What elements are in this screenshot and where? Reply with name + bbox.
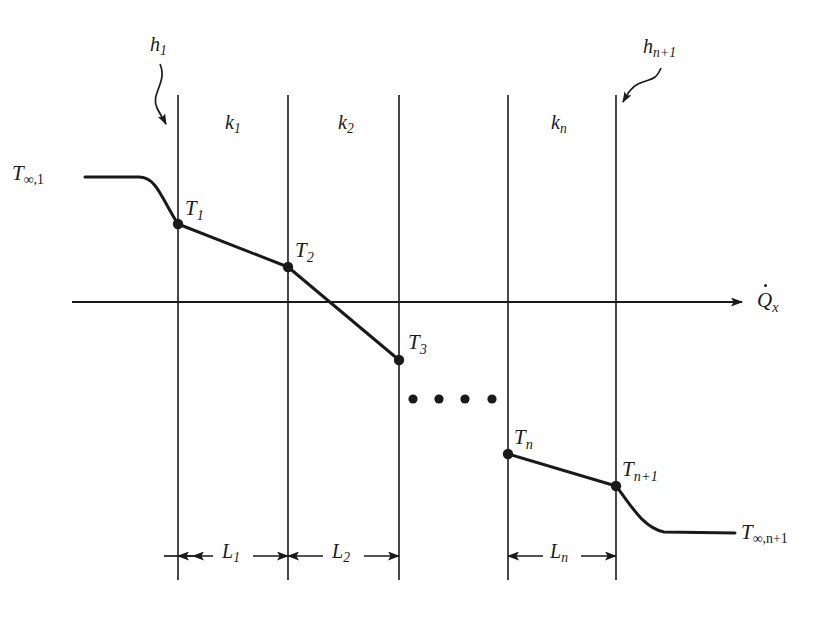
label-heat-flux-base-wrap: Q	[757, 290, 772, 311]
label-h1-sub: 1	[160, 43, 167, 58]
label-k2-base: k	[338, 111, 347, 133]
label-hn1: hn+1	[643, 36, 676, 60]
label-t2: T2	[295, 240, 314, 264]
node-marker-tn	[503, 449, 513, 459]
temperature-node-markers	[173, 219, 621, 491]
ellipsis-dot	[408, 394, 417, 403]
overdot-icon	[764, 284, 767, 287]
node-marker-tn-plus-1	[611, 481, 621, 491]
profile-segment-right-convection	[616, 486, 735, 533]
label-k2-sub: 2	[347, 121, 354, 136]
profile-segment-layer-2	[288, 267, 399, 360]
label-t-inf-n-plus-1-base: T	[741, 520, 753, 544]
label-k2: k2	[338, 112, 354, 136]
label-tn: Tn	[514, 427, 533, 451]
hn1-leader-path	[623, 68, 661, 102]
node-marker-t2	[283, 262, 293, 272]
profile-segment-left-convection	[85, 177, 178, 224]
label-t3-base: T	[408, 330, 420, 354]
label-hn1-base: h	[643, 35, 653, 57]
label-hn1-sub: n+1	[653, 45, 676, 60]
label-t1-sub: 1	[197, 207, 204, 223]
label-t-inf-n-plus-1-sub: ∞,n+1	[753, 531, 788, 546]
label-t-inf-1-sub: ∞,1	[24, 172, 44, 187]
profile-segment-layer-n	[508, 454, 616, 486]
label-t-inf-n-plus-1: T∞,n+1	[741, 522, 788, 546]
label-tn-plus-1-sub: n+1	[634, 468, 659, 484]
ellipsis-dot	[434, 394, 443, 403]
label-kn-sub: n	[560, 121, 567, 136]
ellipsis-dot	[460, 394, 469, 403]
label-t3: T3	[408, 332, 427, 356]
label-t3-sub: 3	[420, 341, 427, 357]
label-l2-base: L	[332, 540, 343, 562]
label-t1: T1	[185, 198, 204, 222]
label-l1-sub: 1	[233, 550, 240, 565]
label-t-inf-1-base: T	[12, 161, 24, 185]
label-l1: L1	[222, 541, 240, 565]
h1-leader-arrow	[155, 64, 166, 124]
label-l1-base: L	[222, 540, 233, 562]
label-tn-plus-1-base: T	[622, 457, 634, 481]
label-k1: k1	[225, 112, 241, 136]
label-heat-flux: Qx	[757, 290, 779, 314]
label-t-inf-1: T∞,1	[12, 163, 44, 187]
label-ln-sub: n	[561, 550, 568, 565]
label-l2: L2	[332, 541, 350, 565]
h1-leader-path	[155, 64, 166, 124]
label-t2-sub: 2	[307, 249, 314, 265]
label-t1-base: T	[185, 196, 197, 220]
ellipsis-dot	[487, 394, 496, 403]
label-k1-base: k	[225, 111, 234, 133]
ellipsis-dots	[408, 394, 496, 403]
label-heat-flux-base: Q	[757, 288, 772, 312]
node-marker-t3	[394, 355, 404, 365]
wall-interface-lines	[178, 95, 616, 580]
label-kn: kn	[551, 112, 567, 136]
label-tn-base: T	[514, 425, 526, 449]
label-tn-plus-1: Tn+1	[622, 459, 658, 483]
profile-segment-layer-1	[178, 224, 288, 267]
label-ln: Ln	[550, 541, 568, 565]
diagram-canvas	[0, 0, 825, 619]
label-k1-sub: 1	[234, 121, 241, 136]
label-h1-base: h	[150, 33, 160, 55]
thermal-resistance-diagram: h1 hn+1 k1 k2 kn T∞,1 T1 T2 T3 Tn Tn+1 T…	[0, 0, 825, 619]
hn1-leader-arrow	[623, 68, 661, 102]
label-t2-base: T	[295, 238, 307, 262]
label-kn-base: k	[551, 111, 560, 133]
label-heat-flux-sub: x	[772, 299, 779, 315]
label-ln-base: L	[550, 540, 561, 562]
label-l2-sub: 2	[343, 550, 350, 565]
label-h1: h1	[150, 34, 167, 58]
node-marker-t1	[173, 219, 183, 229]
label-tn-sub: n	[526, 436, 533, 452]
